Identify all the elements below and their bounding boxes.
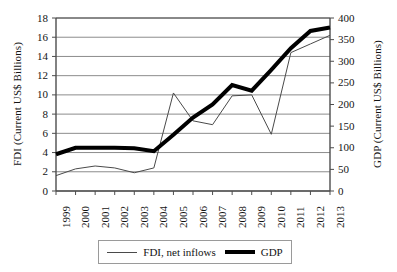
x-axis-tick-label: 2009 [256,206,267,228]
y-axis-right-tick-label: 400 [338,13,364,24]
y-axis-right-tick-label: 0 [338,186,364,197]
x-axis-tick-label: 2003 [139,206,150,228]
x-axis-tick-label: 2002 [119,206,130,228]
y-axis-right-tick-label: 100 [338,142,364,153]
legend-label-gdp: GDP [261,246,283,258]
series-line-gdp [56,28,330,155]
x-axis-tick-label: 2012 [315,206,326,228]
x-axis-tick-label: 2006 [198,206,209,228]
chart-figure: FDI (Current US$ Billions) GDP (Current … [0,0,397,272]
y-axis-left-tick-label: 0 [26,186,48,197]
y-axis-right-tick-label: 200 [338,99,364,110]
y-axis-left-tick-label: 2 [26,166,48,177]
y-axis-left-tick-label: 18 [26,13,48,24]
y-axis-left-tick-label: 14 [26,51,48,62]
y-axis-right-tick-label: 150 [338,121,364,132]
x-axis-tick-label: 2010 [276,206,287,228]
x-axis-tick-label: 2007 [217,206,228,228]
x-axis-tick-label: 2011 [295,206,306,228]
y-axis-right-tick-label: 250 [338,77,364,88]
x-axis-tick-label: 2013 [335,206,346,228]
x-axis-tick-label: 2005 [178,206,189,228]
gridlines [56,18,330,191]
legend-entry-gdp: GDP [225,246,283,258]
legend-entry-fdi: FDI, net inflows [107,246,215,258]
plot-frame [56,18,330,191]
x-axis-tick-label: 2000 [80,206,91,228]
y-axis-left-tick-label: 10 [26,89,48,100]
y-axis-left-tick-label: 6 [26,128,48,139]
y-axis-right-tick-label: 350 [338,34,364,45]
y-axis-left-tick-label: 12 [26,70,48,81]
y-axis-left-tick-label: 16 [26,32,48,43]
x-axis-tick-label: 2004 [158,206,169,228]
y-axis-left-tick-label: 8 [26,109,48,120]
legend-line-icon-gdp [225,250,255,254]
y-axis-right-tick-label: 300 [338,56,364,67]
x-axis-tick-label: 1999 [61,206,72,228]
chart-legend: FDI, net inflows GDP [98,240,292,264]
legend-line-icon-fdi [107,252,137,253]
x-axis-tick-label: 2001 [100,206,111,228]
data-series-lines [56,28,330,176]
y-axis-left-tick-label: 4 [26,147,48,158]
legend-label-fdi: FDI, net inflows [143,246,215,258]
y-axis-right-tick-label: 50 [338,164,364,175]
x-axis-tick-label: 2008 [237,206,248,228]
